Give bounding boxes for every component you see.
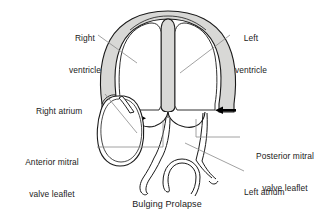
label-right-atrium: Right atrium [36, 85, 108, 138]
papillary-muscle-left-2 [146, 159, 161, 193]
posterior-leaflet-bulge [168, 112, 205, 127]
left-atrium-wall-tip [163, 180, 169, 192]
label-right-ventricle: Right ventricle [52, 12, 118, 96]
label-right-ventricle-line1: Right [52, 33, 118, 44]
label-anterior-leaflet-line1: Anterior mitral [8, 157, 96, 168]
label-left-atrium-line1: Left atrium [244, 187, 314, 198]
label-left-ventricle-line1: Left [216, 33, 286, 44]
papillary-muscle-right-tip [209, 181, 218, 184]
label-right-atrium-line1: Right atrium [36, 106, 108, 117]
left-atrium-wall [168, 163, 196, 194]
label-left-ventricle-line2: ventricle [216, 65, 286, 76]
label-anterior-mitral-valve-leaflet: Anterior mitral valve leaflet [8, 136, 96, 218]
label-left-atrium: Left atrium [244, 166, 314, 218]
label-right-ventricle-line2: ventricle [52, 65, 118, 76]
interventricular-septum [161, 19, 175, 112]
figure-caption: Bulging Prolapse [107, 199, 227, 210]
figure-canvas: Right ventricle Left ventricle Right atr… [0, 0, 334, 218]
label-left-ventricle: Left ventricle [216, 12, 286, 96]
label-posterior-leaflet-line1: Posterior mitral [242, 151, 328, 162]
label-anterior-leaflet-line2: valve leaflet [8, 189, 96, 200]
leader-left-atrium [185, 143, 244, 171]
